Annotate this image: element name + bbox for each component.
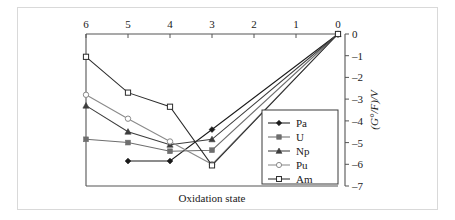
y-tick-label-minus7: –7 (351, 180, 364, 192)
y-tick-label-0: 0 (352, 28, 358, 40)
data-point-pu-4 (167, 139, 172, 144)
y-axis-title: (G°/F)/V (368, 89, 381, 130)
data-point-np-5 (125, 129, 131, 135)
data-point-u-3 (210, 148, 215, 153)
data-point-u-5 (126, 140, 131, 145)
y-tick-label-minus4: –4 (351, 115, 364, 127)
legend-label-pa: Pa (296, 117, 307, 129)
data-point-am-5 (125, 90, 130, 95)
y-axis: 0 –1 –2 –3 –4 –5 –6 –7 (G°/F)/V (345, 28, 381, 192)
data-point-am-0 (335, 31, 340, 36)
legend-label-u: U (296, 131, 304, 143)
data-point-am-6 (83, 54, 88, 59)
x-tick-label-1: 1 (293, 18, 299, 30)
legend-label-pu: Pu (296, 159, 308, 171)
y-tick-label-minus5: –5 (351, 137, 364, 149)
legend-marker-am (277, 177, 282, 182)
data-point-pa-5 (125, 158, 131, 164)
data-point-u-4 (168, 149, 173, 154)
x-tick-label-2: 2 (251, 18, 257, 30)
x-tick-label-4: 4 (167, 18, 173, 30)
data-point-pu-6 (83, 92, 88, 97)
legend-marker-pu (276, 162, 281, 167)
y-tick-label-minus1: –1 (351, 50, 363, 62)
y-tick-label-minus3: –3 (351, 93, 364, 105)
x-tick-label-5: 5 (125, 18, 131, 30)
legend-label-am: Am (296, 173, 313, 185)
legend-marker-u (277, 135, 282, 140)
legend: PaUNpPuAm (262, 110, 338, 185)
data-point-am-4 (167, 104, 172, 109)
data-point-am-3 (209, 163, 214, 168)
y-tick-label-minus2: –2 (351, 71, 363, 83)
figure-container: 6 5 4 3 2 1 0 0 –1 –2 –3 –4 –5 – (0, 0, 455, 220)
frost-diagram: 6 5 4 3 2 1 0 0 –1 –2 –3 –4 –5 – (0, 0, 455, 220)
x-tick-label-3: 3 (209, 18, 215, 30)
x-tick-label-0: 0 (335, 18, 341, 30)
x-tick-label-6: 6 (83, 18, 89, 30)
y-tick-label-minus6: –6 (351, 158, 364, 170)
data-point-np-6 (83, 103, 89, 109)
data-point-pu-5 (125, 116, 130, 121)
data-point-u-6 (84, 137, 89, 142)
legend-label-np: Np (296, 145, 310, 157)
x-axis-title: Oxidation state (179, 192, 246, 204)
